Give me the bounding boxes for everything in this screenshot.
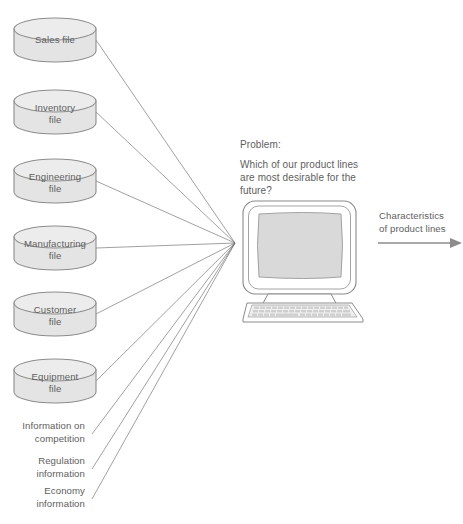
ray-inventory bbox=[96, 112, 235, 243]
database-cylinder-customer[interactable]: Customer file bbox=[14, 292, 96, 336]
monitor-screen bbox=[258, 213, 343, 279]
problem-line-2: future? bbox=[240, 185, 272, 196]
cylinder-label-line-0: Customer bbox=[34, 304, 77, 315]
source-label-line-1: information bbox=[36, 468, 85, 479]
problem-statement: Problem: Which of our product lines are … bbox=[240, 139, 358, 196]
database-cylinder-sales[interactable]: Sales file bbox=[14, 18, 96, 62]
database-cylinder-inventory[interactable]: Inventory file bbox=[14, 90, 96, 134]
external-source-competition[interactable]: Information on competition bbox=[22, 420, 85, 444]
output-arrow-icon bbox=[378, 238, 462, 248]
diagram-svg: Sales file Inventory file Engineering fi… bbox=[0, 0, 463, 524]
cylinder-label-line-1: file bbox=[49, 316, 62, 327]
cylinder-label-line-1: file bbox=[49, 383, 62, 394]
source-label-line-0: Economy bbox=[44, 485, 85, 496]
ray-customer bbox=[96, 243, 235, 314]
ray-equipment bbox=[96, 243, 235, 381]
cylinder-label-line-1: file bbox=[49, 250, 62, 261]
cylinder-label-line-0: Manufacturing bbox=[24, 238, 86, 249]
source-label-line-1: information bbox=[36, 498, 85, 509]
ray-manufacturing bbox=[96, 243, 235, 248]
source-label-line-0: Information on bbox=[22, 420, 85, 431]
problem-line-1: are most desirable for the bbox=[240, 172, 356, 183]
ray-sales bbox=[96, 40, 235, 243]
output-label-line-0: Characteristics bbox=[379, 210, 444, 221]
problem-line-0: Which of our product lines bbox=[240, 159, 358, 170]
cylinder-label-line-0: Inventory bbox=[35, 102, 75, 113]
ray-regulation bbox=[92, 243, 235, 469]
problem-heading: Problem: bbox=[240, 139, 281, 150]
ray-economy bbox=[92, 243, 235, 499]
cylinder-label-line-0: Engineering bbox=[29, 171, 81, 182]
database-cylinder-equipment[interactable]: Equipment file bbox=[14, 359, 96, 403]
source-label-line-0: Regulation bbox=[38, 455, 85, 466]
ray-competition bbox=[92, 243, 235, 434]
cylinder-label-line-1: file bbox=[49, 183, 62, 194]
cylinder-label-line-0: Equipment bbox=[32, 371, 79, 382]
output-annotation: Characteristics of product lines bbox=[378, 210, 462, 248]
source-label-line-1: competition bbox=[35, 433, 85, 444]
external-source-regulation[interactable]: Regulation information bbox=[36, 455, 85, 479]
cylinder-label-line-0: Sales file bbox=[35, 34, 75, 45]
output-label-line-1: of product lines bbox=[379, 223, 446, 234]
diagram-canvas: Sales file Inventory file Engineering fi… bbox=[0, 0, 463, 524]
database-cylinder-engineering[interactable]: Engineering file bbox=[14, 159, 96, 203]
cylinder-label-line-1: file bbox=[49, 114, 62, 125]
database-cylinder-manufacturing[interactable]: Manufacturing file bbox=[14, 226, 96, 270]
connector-rays bbox=[92, 40, 235, 499]
external-source-economy[interactable]: Economy information bbox=[36, 485, 85, 509]
computer-terminal-icon[interactable] bbox=[243, 201, 363, 322]
